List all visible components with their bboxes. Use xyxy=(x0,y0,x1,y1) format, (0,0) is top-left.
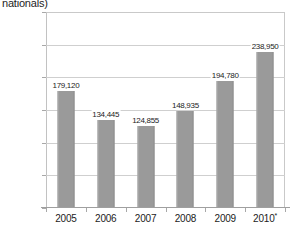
x-axis-tick xyxy=(46,208,47,212)
x-axis-tick xyxy=(166,208,167,212)
x-axis-tick xyxy=(86,208,87,212)
bar-value-label: 148,935 xyxy=(171,101,200,110)
bar-value-label: 134,445 xyxy=(91,110,120,119)
bar-value-label: 124,855 xyxy=(131,116,160,125)
asterisk-marker: * xyxy=(275,212,278,219)
bar-slot: 148,935 xyxy=(166,12,206,208)
x-axis-label: 2009 xyxy=(215,213,236,224)
bar xyxy=(97,120,114,208)
chart-title-fragment: nationals) xyxy=(2,0,48,9)
bar xyxy=(177,111,194,208)
x-axis-label: 2008 xyxy=(175,213,196,224)
bar xyxy=(57,91,74,208)
axis-baseline xyxy=(41,207,290,208)
bar-slot: 179,120 xyxy=(46,12,86,208)
bar-value-label: 238,950 xyxy=(251,42,280,51)
bar-chart: nationals) 179,120134,445124,855148,9351… xyxy=(0,0,295,234)
plot-area: 179,120134,445124,855148,935194,780238,9… xyxy=(46,12,285,208)
x-axis-label: 2010* xyxy=(253,213,277,224)
bar-value-label: 179,120 xyxy=(51,81,80,90)
x-axis-tick xyxy=(285,208,286,212)
x-axis-label: 2006 xyxy=(95,213,116,224)
bar-slot: 124,855 xyxy=(126,12,166,208)
bar-slot: 194,780 xyxy=(205,12,245,208)
bar-slot: 238,950 xyxy=(245,12,285,208)
x-axis-label: 2005 xyxy=(55,213,76,224)
bar xyxy=(137,126,154,208)
x-axis-tick xyxy=(205,208,206,212)
bar xyxy=(257,52,274,208)
x-axis-label: 2007 xyxy=(135,213,156,224)
bar-value-label: 194,780 xyxy=(211,71,240,80)
x-axis-tick xyxy=(126,208,127,212)
x-axis-tick xyxy=(245,208,246,212)
bar xyxy=(217,81,234,208)
bar-slot: 134,445 xyxy=(86,12,126,208)
